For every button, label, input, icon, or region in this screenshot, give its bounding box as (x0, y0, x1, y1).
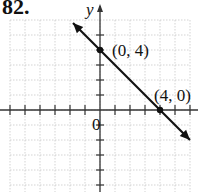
origin-label: 0 (92, 115, 101, 134)
y-axis-label: y (84, 0, 94, 19)
coordinate-graph: y0(0, 4)(4, 0) (0, 0, 198, 192)
y-axis-arrow-icon (97, 4, 103, 12)
point-label-0-4: (0, 4) (112, 41, 149, 60)
data-point (97, 47, 103, 53)
point-label-4-0: (4, 0) (154, 86, 191, 105)
data-point (157, 107, 163, 113)
